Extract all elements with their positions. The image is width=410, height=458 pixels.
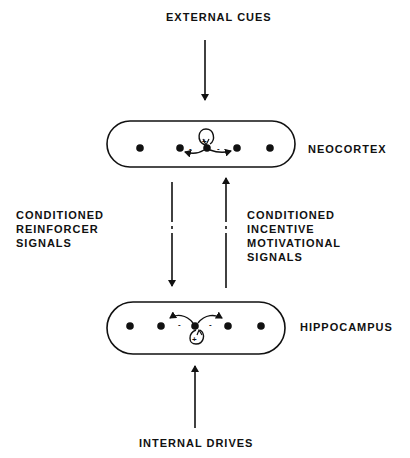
neocortex-region (107, 121, 295, 167)
neocortex-label: NEOCORTEX (308, 142, 387, 156)
hippocampus-node (157, 322, 165, 330)
hippocampus-center-node (191, 322, 199, 330)
conditioned-reinforcer-signals-label: CONDITIONED REINFORCER SIGNALS (16, 208, 104, 250)
hippocampus-node (126, 322, 134, 330)
hippocampus-inhibition-sign-right: - (209, 318, 213, 332)
conditioned-incentive-motivational-signals-label: CONDITIONED INCENTIVE MOTIVATIONAL SIGNA… (247, 208, 341, 264)
neocortex-inhibition-sign-right: - (217, 142, 221, 156)
neocortex-excitation-sign: + (202, 135, 208, 149)
neocortex-node (176, 144, 184, 152)
external-cues-label: EXTERNAL CUES (166, 10, 272, 24)
hippocampus-node (257, 322, 265, 330)
internal-drives-label: INTERNAL DRIVES (139, 436, 253, 450)
neocortex-node (266, 144, 274, 152)
hippocampus-inhibition-sign-left: - (178, 318, 182, 332)
neocortex-inhibition-sign-left: - (189, 142, 193, 156)
neocortex-node (233, 144, 241, 152)
hippocampus-node (224, 322, 232, 330)
neocortex-node (136, 144, 144, 152)
hippocampus-excitation-sign: + (192, 333, 198, 347)
hippocampus-label: HIPPOCAMPUS (300, 320, 393, 334)
